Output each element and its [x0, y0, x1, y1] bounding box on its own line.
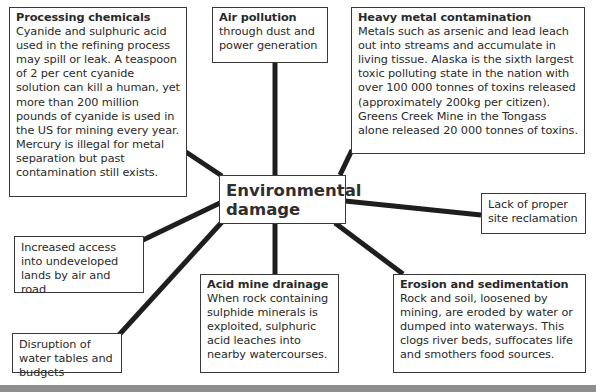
node-body: through dust and power generation — [219, 25, 322, 53]
node-title: Erosion and sedimentation — [400, 278, 580, 292]
node-increased-access: Increased access into undeveloped lands … — [14, 236, 144, 293]
node-title: Air pollution — [219, 11, 322, 25]
node-title: Heavy metal contamination — [358, 11, 579, 25]
connector-processing-chemicals — [186, 152, 222, 176]
node-body: When rock containing sulphide minerals i… — [207, 292, 333, 362]
node-body: Disruption of water tables and budgets — [19, 338, 116, 380]
footer-bar — [0, 385, 596, 392]
connector-site-reclamation — [345, 201, 481, 215]
node-site-reclamation: Lack of proper site reclamation — [481, 193, 586, 234]
center-label: Environmental damage — [226, 181, 361, 219]
node-body: Lack of proper site reclamation — [488, 198, 580, 226]
node-air-pollution: Air pollution through dust and power gen… — [212, 7, 328, 63]
node-title: Acid mine drainage — [207, 278, 333, 292]
node-acid-mine-drainage: Acid mine drainage When rock containing … — [200, 274, 339, 373]
node-body: Increased access into undeveloped lands … — [21, 241, 138, 297]
node-water-disruption: Disruption of water tables and budgets — [12, 333, 122, 373]
center-node: Environmental damage — [219, 175, 346, 224]
connector-erosion — [335, 223, 403, 274]
node-body: Rock and soil, loosened by mining, are e… — [400, 292, 580, 362]
node-erosion-sedimentation: Erosion and sedimentation Rock and soil,… — [393, 274, 586, 373]
node-body: Metals such as arsenic and lead leach ou… — [358, 25, 579, 138]
node-title: Processing chemicals — [16, 11, 181, 25]
node-body: Cyanide and sulphuric acid used in the r… — [16, 25, 181, 180]
node-processing-chemicals: Processing chemicals Cyanide and sulphur… — [9, 7, 187, 197]
node-heavy-metal-contamination: Heavy metal contamination Metals such as… — [351, 7, 585, 154]
